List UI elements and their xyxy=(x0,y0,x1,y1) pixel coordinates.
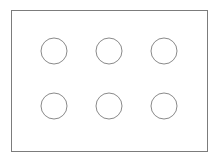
diagram-canvas xyxy=(0,0,218,161)
hole-r1-c1 xyxy=(41,38,67,64)
hole-r2-c1 xyxy=(41,93,67,119)
hole-r1-c2 xyxy=(96,38,122,64)
hole-r2-c2 xyxy=(96,93,122,119)
hole-r1-c3 xyxy=(151,38,177,64)
diagram-svg xyxy=(0,0,218,161)
outer-rectangle xyxy=(12,11,208,152)
hole-r2-c3 xyxy=(151,93,177,119)
